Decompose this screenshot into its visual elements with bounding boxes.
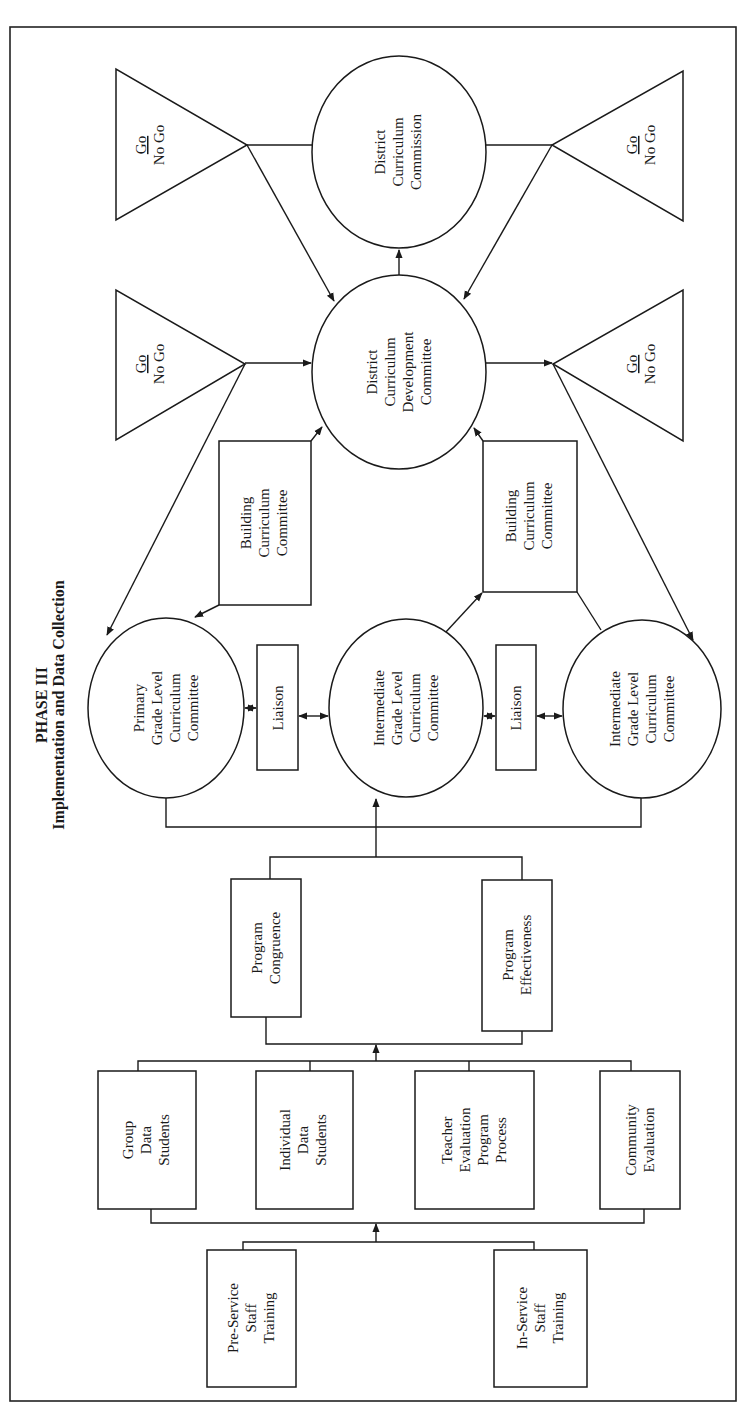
data-source-community: Community Evaluation [600, 1071, 680, 1209]
svg-text:Data: Data [138, 1126, 154, 1155]
svg-text:Individual: Individual [277, 1109, 293, 1171]
data-source-group: Group Data Students [98, 1071, 196, 1209]
data-source-individual: Individual Data Students [256, 1071, 353, 1209]
svg-text:Development: Development [400, 331, 416, 413]
svg-text:Curriculum: Curriculum [521, 481, 537, 550]
gate-mid-left: Go No Go [116, 290, 245, 440]
svg-text:Congruence: Congruence [267, 911, 283, 984]
svg-text:Curriculum: Curriculum [407, 673, 423, 742]
svg-text:Students: Students [313, 1114, 329, 1166]
connector [577, 592, 601, 630]
data-bottom-bracket [151, 1209, 644, 1223]
building-committee-right: Building Curriculum Committee [483, 441, 577, 592]
liaison-box-2: Liaison [496, 645, 536, 770]
svg-text:Evaluation: Evaluation [641, 1107, 657, 1172]
program-top-bracket [270, 857, 522, 880]
svg-text:Liaison: Liaison [508, 685, 524, 730]
svg-text:Curriculum: Curriculum [167, 673, 183, 742]
gate-nogo-label: No Go [642, 125, 658, 165]
svg-text:Data: Data [295, 1126, 311, 1155]
data-source-teacher: Teacher Evaluation Program Process [415, 1071, 534, 1209]
gate-top-right: Go No Go [552, 71, 683, 221]
district-development-node: District Curriculum Development Committe… [312, 275, 486, 469]
svg-text:Building: Building [503, 489, 519, 542]
svg-text:Intermediate: Intermediate [371, 670, 387, 746]
program-congruence-box: Program Congruence [231, 879, 301, 1017]
svg-text:In-Service: In-Service [514, 1286, 530, 1349]
svg-text:Liaison: Liaison [270, 685, 286, 730]
district-commission-node: District Curriculum Commission [312, 56, 486, 248]
title-subtitle: Implementation and Data Collection [50, 580, 68, 829]
liaison-box-1: Liaison [257, 645, 298, 770]
title-phase: PHASE III [33, 667, 50, 743]
program-effectiveness-box: Program Effectiveness [482, 880, 552, 1031]
gate-nogo-label: No Go [642, 344, 658, 384]
svg-text:Staff: Staff [532, 1304, 548, 1333]
svg-text:Community: Community [623, 1104, 639, 1176]
svg-text:Group: Group [120, 1121, 136, 1159]
svg-text:Committee: Committee [274, 489, 290, 556]
svg-text:Curriculum: Curriculum [256, 488, 272, 557]
arrow-intermediate-to-building [445, 593, 482, 633]
pre-service-training-box: Pre-Service Staff Training [207, 1250, 296, 1387]
svg-text:Evaluation: Evaluation [457, 1107, 473, 1172]
svg-text:District: District [364, 349, 380, 395]
grade-committees-bracket [166, 798, 641, 827]
intermediate-grade-committee-2: Intermediate Grade Level Curriculum Comm… [563, 620, 721, 798]
gate-go-label: Go [624, 136, 640, 154]
svg-text:Committee: Committee [418, 338, 434, 405]
svg-text:Process: Process [493, 1117, 509, 1163]
svg-text:Primary: Primary [131, 683, 147, 732]
in-service-training-box: In-Service Staff Training [494, 1250, 587, 1387]
svg-text:Building: Building [238, 496, 254, 549]
svg-text:Grade Level: Grade Level [149, 671, 165, 746]
svg-text:Curriculum: Curriculum [390, 117, 406, 186]
svg-text:Pre-Service: Pre-Service [225, 1283, 241, 1353]
svg-text:Program: Program [475, 1114, 491, 1166]
gate-nogo-label: No Go [151, 125, 167, 165]
svg-text:Teacher: Teacher [439, 1116, 455, 1163]
diagram-title: PHASE III Implementation and Data Collec… [33, 580, 68, 829]
arrow-building-to-development [474, 428, 483, 441]
svg-text:Effectiveness: Effectiveness [518, 915, 534, 996]
gate-go-label: Go [133, 355, 149, 373]
svg-text:Program: Program [249, 922, 265, 974]
data-top-bracket [138, 1061, 631, 1071]
svg-text:District: District [372, 129, 388, 175]
svg-text:Program: Program [500, 929, 516, 981]
gate-nogo-label: No Go [151, 344, 167, 384]
svg-text:Curriculum: Curriculum [382, 337, 398, 406]
arrow-building-to-primary [195, 605, 219, 617]
svg-text:Training: Training [261, 1292, 277, 1344]
gate-go-label: Go [133, 136, 149, 154]
svg-text:Grade Level: Grade Level [389, 671, 405, 746]
gate-go-label: Go [624, 355, 640, 373]
arrow-building-to-development [311, 427, 322, 441]
svg-text:Training: Training [550, 1292, 566, 1344]
svg-text:Students: Students [156, 1114, 172, 1166]
svg-text:Committee: Committee [185, 674, 201, 741]
svg-text:Staff: Staff [243, 1304, 259, 1333]
svg-text:Curriculum: Curriculum [643, 674, 659, 743]
primary-grade-committee: Primary Grade Level Curriculum Committee [88, 618, 244, 798]
svg-text:Commission: Commission [408, 114, 424, 190]
svg-text:Intermediate: Intermediate [607, 671, 623, 747]
gate-top-left: Go No Go [116, 69, 247, 220]
svg-text:Committee: Committee [661, 675, 677, 742]
phase-iii-diagram: Go No Go Go No Go Go No Go Go No Go [0, 0, 746, 1415]
intermediate-grade-committee-1: Intermediate Grade Level Curriculum Comm… [329, 619, 483, 797]
training-bracket [243, 1242, 534, 1250]
svg-text:Grade Level: Grade Level [625, 672, 641, 747]
svg-text:Committee: Committee [539, 482, 555, 549]
building-committee-left: Building Curriculum Committee [219, 441, 311, 605]
svg-text:Committee: Committee [425, 674, 441, 741]
gate-mid-right: Go No Go [553, 290, 683, 441]
